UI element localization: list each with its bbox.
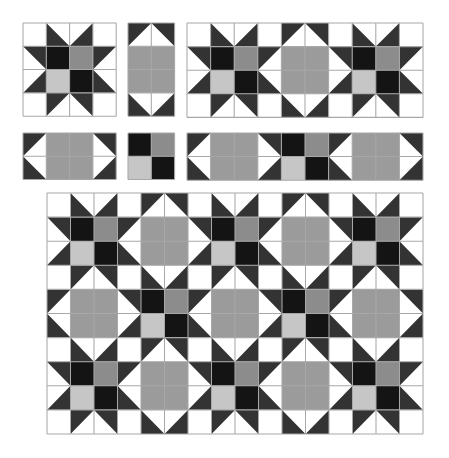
panel-single-star: Single star block [23, 23, 116, 116]
panel-quilt-top: Assembled quilt top [47, 193, 423, 434]
panel-star-row-strip: Star row strip [187, 23, 423, 117]
panel-single-corner: Single cornerstone [128, 133, 175, 180]
panel-sash-row-strip: Sashing row strip [187, 133, 423, 180]
panel-single-vsash: Single vertical sashing [128, 23, 175, 116]
panel-single-hsash: Single horizontal sashing [23, 133, 116, 180]
